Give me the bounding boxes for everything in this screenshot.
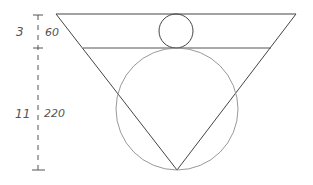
bottom-ratio-label: 11 — [15, 108, 30, 120]
bottom-height-label: 220 — [44, 108, 65, 119]
large-circle — [116, 48, 238, 170]
top-ratio-label: 3 — [16, 26, 24, 38]
small-circle — [159, 14, 193, 48]
inverted-triangle — [56, 14, 296, 170]
top-height-label: 60 — [45, 27, 59, 38]
